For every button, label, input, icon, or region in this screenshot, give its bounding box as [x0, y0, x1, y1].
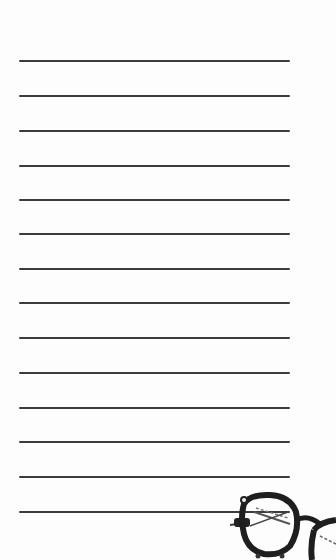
- ruled-line: [19, 60, 290, 62]
- ruled-line: [19, 165, 290, 167]
- ruled-line: [19, 95, 290, 97]
- ruled-line: [19, 233, 290, 235]
- ruled-line: [19, 268, 290, 270]
- lined-notepad-page: [0, 0, 336, 560]
- ruled-line: [19, 476, 290, 478]
- ruled-line: [19, 407, 290, 409]
- ruled-line: [19, 372, 290, 374]
- ruled-line: [19, 337, 290, 339]
- ruled-line: [19, 441, 290, 443]
- ruled-line: [19, 199, 290, 201]
- ruled-line: [19, 302, 290, 304]
- eyeglasses-icon: [230, 490, 336, 560]
- ruled-line: [19, 130, 290, 132]
